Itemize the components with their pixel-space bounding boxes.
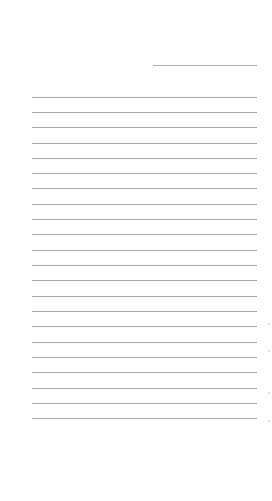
scan-speck — [268, 420, 270, 422]
scan-speck — [268, 392, 270, 394]
ruled-line — [32, 403, 257, 404]
ruled-line — [32, 127, 257, 128]
ruled-line — [32, 112, 257, 113]
scan-speck — [268, 323, 270, 325]
ruled-line — [32, 143, 257, 144]
scan-speck — [268, 350, 270, 352]
ruled-line — [32, 265, 257, 266]
ruled-line — [32, 372, 257, 373]
ruled-line — [32, 388, 257, 389]
lined-paper-page — [0, 0, 272, 501]
ruled-line — [32, 97, 257, 98]
ruled-line — [32, 219, 257, 220]
ruled-line — [32, 234, 257, 235]
ruled-line — [32, 188, 257, 189]
ruled-line — [32, 280, 257, 281]
ruled-line — [32, 311, 257, 312]
ruled-line — [32, 250, 257, 251]
ruled-line — [32, 357, 257, 358]
ruled-line — [32, 342, 257, 343]
ruled-line — [32, 326, 257, 327]
ruled-line — [32, 296, 257, 297]
header-date-line — [153, 65, 257, 66]
ruled-line — [32, 173, 257, 174]
ruled-line — [32, 204, 257, 205]
ruled-line — [32, 418, 257, 419]
ruled-line — [32, 158, 257, 159]
